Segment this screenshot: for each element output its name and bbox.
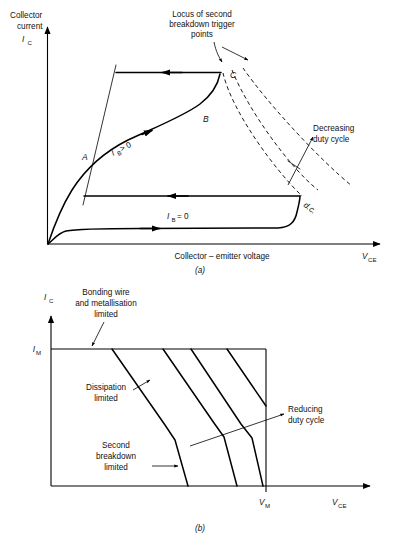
panel-a-label-ib-zero-relation: = 0 [177, 212, 189, 221]
panel-a-y-axis-symbol: I [22, 35, 25, 44]
panel-b-dissipation-note-line1: Dissipation [86, 383, 126, 392]
panel-a-point-b-label: B [203, 114, 209, 124]
panel-b-bonding-note-line1: Bonding wire [82, 288, 130, 297]
panel-a-duty-note-arrow [288, 137, 313, 185]
panel-a-locus-note-arrow-right [222, 47, 248, 60]
panel-a-duty-note-line2: duty cycle [313, 135, 350, 144]
panel-a-y-axis-label-line1: Collector [10, 11, 43, 20]
panel-b-bonding-note-arrow [92, 322, 104, 346]
panel-a-label-ib-zero: I B = 0 [167, 212, 189, 223]
panel-a: Collector current I C Locus of second br… [10, 10, 380, 275]
panel-b-y-axis-symbol-sub: C [49, 297, 54, 304]
panel-b-dissipation-note-line2: limited [94, 394, 118, 403]
panel-b-secondbd-note-line2: breakdown [96, 452, 137, 461]
panel-a-locus-duty-1 [232, 70, 318, 190]
panel-b-bonding-note-line3: limited [94, 310, 118, 319]
panel-b-secondbd-note-line1: Second [102, 441, 130, 450]
panel-a-duty-note-line1: Decreasing [313, 124, 355, 133]
panel-b-y-tick-sub: M [36, 349, 41, 356]
panel-a-label-dc-text: d.c. [302, 200, 318, 215]
panel-a-locus-note-line3: points [191, 30, 213, 39]
panel-a-label-ib-zero-sub: B [172, 216, 176, 223]
panel-a-locus-note-line1: Locus of second [172, 10, 232, 19]
panel-a-x-axis-label: Collector – emitter voltage [174, 252, 270, 261]
panel-a-label-ib-positive-relation: > 0 [118, 140, 133, 153]
panel-a-label-ib-zero-symbol: I [167, 212, 170, 221]
panel-b-bonding-note-line2: and metallisation [75, 299, 137, 308]
panel-b-x-axis-symbol-sub: CE [338, 502, 346, 509]
panel-a-locus-note-line2: breakdown trigger [169, 20, 235, 29]
panel-a-curve-ib-positive [48, 74, 220, 244]
panel-a-load-line [83, 65, 116, 205]
panel-a-y-axis-label-line2: current [17, 22, 43, 31]
panel-a-label-ib-positive: I B > 0 [110, 140, 134, 159]
panel-b-y-axis-symbol: I [44, 293, 47, 302]
panel-a-caption: (a) [195, 266, 205, 275]
panel-b-soa-curve-duty-3 [227, 349, 266, 406]
panel-a-label-dc: d.c. [302, 200, 318, 215]
panel-b-soa-curve-duty-1 [163, 349, 237, 486]
panel-b-soa-curve-duty-2 [191, 349, 263, 486]
panel-b-caption: (b) [195, 524, 205, 533]
panel-b-reducing-note-line2: duty cycle [288, 416, 325, 425]
panel-a-y-axis-symbol-sub: C [28, 39, 33, 46]
panel-b-x-tick-sub: M [265, 502, 270, 509]
panel-b-secondbd-note-line3: limited [104, 463, 128, 472]
panel-b-reducing-note-line1: Reducing [288, 405, 323, 414]
figure-svg: Collector current I C Locus of second br… [0, 0, 401, 550]
panel-a-point-c-label: C [230, 70, 237, 80]
panel-a-locus-dc [223, 73, 302, 196]
panel-b: I C I M V M V CE Bonding wire and metall… [33, 288, 370, 533]
panel-a-locus-note-arrow-left [214, 42, 222, 62]
panel-a-point-a-label: A [81, 152, 88, 162]
panel-a-x-axis-symbol-sub: CE [368, 256, 376, 263]
figure-root: Collector current I C Locus of second br… [0, 0, 401, 550]
